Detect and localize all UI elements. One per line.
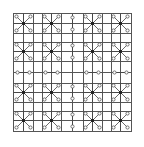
star-node (83, 42, 103, 62)
node-end-icon (98, 84, 101, 87)
node-end-icon (29, 84, 32, 87)
node-end-icon (126, 29, 129, 32)
node-end-icon (43, 57, 46, 60)
node-end-icon (71, 125, 74, 128)
node-end-icon (71, 56, 74, 59)
node-end-icon (84, 57, 87, 60)
node-end-icon (98, 98, 101, 101)
node-end-icon (112, 43, 115, 46)
node-end-icon (15, 43, 18, 46)
hub-icon (119, 22, 122, 25)
node-end-icon (126, 112, 129, 115)
hub-icon (119, 91, 122, 94)
node-end-icon (71, 85, 74, 88)
node-end-icon (15, 15, 18, 18)
node-end-icon (84, 43, 87, 46)
node-end-icon (43, 43, 46, 46)
node-end-icon (16, 71, 19, 74)
node-end-icon (126, 84, 129, 87)
node-end-icon (15, 98, 18, 101)
node-end-icon (28, 71, 31, 74)
node-end-icon (98, 43, 101, 46)
node-end-icon (112, 126, 115, 129)
star-node (83, 111, 103, 131)
node-end-icon (98, 15, 101, 18)
node-end-icon (29, 98, 32, 101)
node-end-icon (29, 43, 32, 46)
node-end-icon (84, 29, 87, 32)
node-end-icon (57, 15, 60, 18)
node-end-icon (15, 126, 18, 129)
node-end-icon (112, 15, 115, 18)
star-node (14, 14, 34, 34)
star-node (42, 83, 62, 103)
hub-icon (22, 22, 25, 25)
node-end-icon (43, 84, 46, 87)
hub-icon (50, 91, 53, 94)
node-end-icon (112, 112, 115, 115)
hub-icon (91, 22, 94, 25)
node-end-icon (15, 29, 18, 32)
node-end-icon (98, 126, 101, 129)
node-end-icon (84, 98, 87, 101)
node-end-icon (29, 29, 32, 32)
node-end-icon (71, 16, 74, 19)
star-node (111, 83, 131, 103)
star-node (14, 111, 34, 131)
node-end-icon (44, 71, 47, 74)
hub-icon (91, 50, 94, 53)
hub-icon (22, 50, 25, 53)
node-end-icon (71, 28, 74, 31)
node-end-icon (57, 112, 60, 115)
node-end-icon (29, 57, 32, 60)
node-end-icon (112, 57, 115, 60)
node-end-icon (112, 84, 115, 87)
star-node (42, 14, 62, 34)
node-end-icon (43, 15, 46, 18)
node-grid-diagram (0, 0, 144, 147)
node-end-icon (84, 112, 87, 115)
node-end-icon (112, 98, 115, 101)
node-end-icon (71, 97, 74, 100)
node-end-icon (43, 29, 46, 32)
node-end-icon (43, 98, 46, 101)
hub-icon (50, 22, 53, 25)
star-node (111, 14, 131, 34)
node-end-icon (15, 112, 18, 115)
node-end-icon (84, 15, 87, 18)
node-end-icon (97, 71, 100, 74)
node-end-icon (126, 126, 129, 129)
node-end-icon (29, 126, 32, 129)
node-end-icon (84, 126, 87, 129)
node-end-icon (126, 43, 129, 46)
node-end-icon (43, 126, 46, 129)
node-end-icon (125, 71, 128, 74)
hub-icon (22, 91, 25, 94)
star-node (14, 83, 34, 103)
node-end-icon (126, 57, 129, 60)
star-node (83, 14, 103, 34)
hub-icon (91, 119, 94, 122)
node-end-icon (98, 57, 101, 60)
star-node (111, 111, 131, 131)
hub-icon (91, 91, 94, 94)
node-end-icon (15, 57, 18, 60)
node-end-icon (57, 57, 60, 60)
node-end-icon (57, 126, 60, 129)
node-end-icon (43, 112, 46, 115)
node-end-icon (71, 44, 74, 47)
star-node (42, 111, 62, 131)
node-end-icon (71, 113, 74, 116)
star-node (14, 42, 34, 62)
node-end-icon (56, 71, 59, 74)
node-end-icon (85, 71, 88, 74)
node-end-icon (57, 29, 60, 32)
node-end-icon (112, 29, 115, 32)
node-end-icon (98, 29, 101, 32)
hub-icon (119, 50, 122, 53)
star-node (111, 42, 131, 62)
node-end-icon (57, 43, 60, 46)
node-end-icon (126, 15, 129, 18)
star-node (42, 42, 62, 62)
node-end-icon (57, 98, 60, 101)
